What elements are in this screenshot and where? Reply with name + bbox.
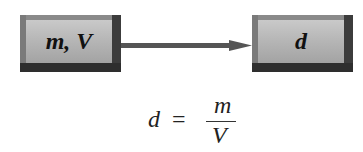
formula-equals: = — [172, 106, 186, 133]
box-face: d — [258, 20, 344, 63]
formula-denominator: V — [212, 122, 227, 149]
output-box: d — [252, 15, 353, 72]
bevel — [252, 63, 353, 72]
box-face: m, V — [26, 20, 112, 63]
arrow-shaft — [121, 43, 233, 48]
formula-numerator: m — [214, 92, 231, 119]
bevel — [20, 63, 121, 72]
formula-lhs: d — [148, 106, 160, 133]
input-box: m, V — [20, 15, 121, 72]
arrow-right-icon — [121, 40, 253, 52]
input-label: m, V — [46, 28, 93, 55]
output-label: d — [295, 28, 307, 55]
arrow-head — [229, 40, 252, 51]
